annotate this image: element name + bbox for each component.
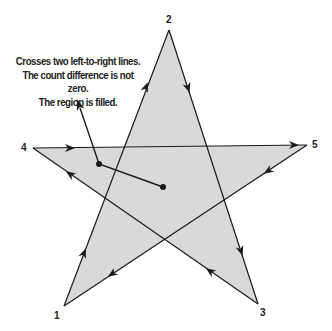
vertex-label-2: 2 [166,14,172,25]
caption: Crosses two left-to-right lines. The cou… [13,55,144,109]
vertex-label-3: 3 [260,307,266,318]
vertex-label-4: 4 [21,142,27,153]
caption-line-2: The count difference is not zero. [13,69,144,96]
vertex-label-5: 5 [312,139,318,150]
pointer-dot [96,161,102,167]
vertex-label-1: 1 [54,310,60,321]
caption-line-3: The region is filled. [13,96,144,110]
region-dot [160,184,166,190]
star-diagram [0,0,332,331]
caption-line-1: Crosses two left-to-right lines. [13,55,144,69]
